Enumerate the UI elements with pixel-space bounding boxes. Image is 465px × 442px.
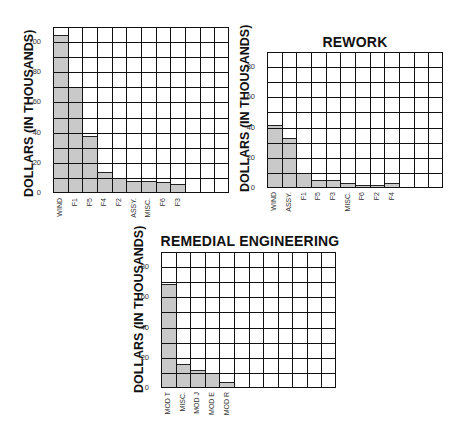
x-category-label: MISC. xyxy=(344,192,351,232)
x-category-label: WIND xyxy=(270,192,277,232)
x-category-label: WIND xyxy=(56,198,63,238)
y-tick-label: 0 xyxy=(237,183,255,192)
x-category-label: F2 xyxy=(115,198,122,238)
x-category-label: F5 xyxy=(86,198,93,238)
chart-title: REWORK xyxy=(267,34,443,50)
y-tick-label: 80 xyxy=(23,67,41,76)
x-category-label: F2 xyxy=(373,192,380,232)
x-category-label: F1 xyxy=(71,198,78,238)
plot-frame xyxy=(53,27,229,193)
y-tick-label: 60 xyxy=(131,292,149,301)
y-tick-label: 20 xyxy=(131,353,149,362)
y-tick-label: 80 xyxy=(131,262,149,271)
y-tick-label: 100 xyxy=(23,37,41,46)
x-category-label: ASSY. xyxy=(285,192,292,232)
y-tick-label: 0 xyxy=(131,383,149,392)
x-category-label: F4 xyxy=(388,192,395,232)
x-category-label: MISC. xyxy=(179,392,186,432)
y-tick-label: 40 xyxy=(23,128,41,137)
y-tick-label: 40 xyxy=(237,123,255,132)
x-category-label: F5 xyxy=(314,192,321,232)
x-category-label: F1 xyxy=(300,192,307,232)
x-category-label: F4 xyxy=(100,198,107,238)
y-tick-label: 80 xyxy=(237,62,255,71)
chart-title: REMEDIAL ENGINEERING xyxy=(150,233,350,249)
y-axis-label: DOLLARS (IN THOUSANDS) xyxy=(22,30,36,197)
x-category-label: MOD J xyxy=(193,392,200,432)
y-axis-label: DOLLARS (IN THOUSANDS) xyxy=(238,25,252,192)
y-tick-label: 20 xyxy=(237,153,255,162)
x-category-label: MOD T xyxy=(164,392,171,432)
plot-frame xyxy=(161,252,336,388)
y-tick-label: 0 xyxy=(23,188,41,197)
x-category-label: F6 xyxy=(159,198,166,238)
x-category-label: F6 xyxy=(358,192,365,232)
x-category-label: MOD E xyxy=(208,392,215,432)
y-tick-label: 60 xyxy=(237,92,255,101)
y-tick-label: 60 xyxy=(23,97,41,106)
x-category-label: F3 xyxy=(329,192,336,232)
x-category-label: MOD R xyxy=(223,392,230,432)
y-tick-label: 40 xyxy=(131,323,149,332)
plot-frame xyxy=(267,52,443,188)
y-tick-label: 20 xyxy=(23,158,41,167)
x-category-label: F3 xyxy=(174,198,181,238)
y-axis-label: DOLLARS (IN THOUSANDS) xyxy=(132,226,146,393)
